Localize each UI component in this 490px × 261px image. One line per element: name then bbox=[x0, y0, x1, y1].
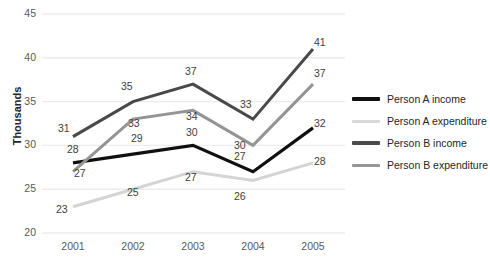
x-tick-label: 2001 bbox=[50, 240, 96, 252]
x-tick-label: 2004 bbox=[230, 240, 276, 252]
chart-legend: Person A incomePerson A expenditurePerso… bbox=[352, 88, 490, 176]
legend-item-3[interactable]: Person B expenditure bbox=[352, 154, 490, 176]
data-point-label: 23 bbox=[56, 203, 68, 215]
legend-item-label: Person B income bbox=[387, 137, 467, 149]
x-tick-label: 2002 bbox=[110, 240, 156, 252]
legend-item-1[interactable]: Person A expenditure bbox=[352, 110, 490, 132]
line-chart: Thousands 454035302520 20012002200320042… bbox=[0, 0, 490, 261]
legend-item-label: Person A expenditure bbox=[387, 115, 487, 127]
gridlines bbox=[42, 14, 345, 233]
legend-item-2[interactable]: Person B income bbox=[352, 132, 490, 154]
data-point-label: 29 bbox=[131, 132, 143, 144]
y-axis-title: Thousands bbox=[11, 66, 23, 166]
data-point-label: 27 bbox=[74, 167, 86, 179]
data-point-label: 31 bbox=[58, 122, 70, 134]
data-point-label: 37 bbox=[314, 67, 326, 79]
data-point-label: 35 bbox=[121, 80, 133, 92]
legend-item-0[interactable]: Person A income bbox=[352, 88, 490, 110]
legend-item-label: Person B expenditure bbox=[387, 159, 488, 171]
data-point-label: 37 bbox=[185, 65, 197, 77]
legend-swatch-icon bbox=[352, 141, 380, 144]
series-line-1 bbox=[73, 163, 313, 207]
data-point-label: 26 bbox=[234, 190, 246, 202]
x-tick-label: 2003 bbox=[170, 240, 216, 252]
data-point-label: 30 bbox=[186, 126, 198, 138]
data-point-label: 28 bbox=[67, 143, 79, 155]
data-point-label: 41 bbox=[314, 36, 326, 48]
data-point-label: 34 bbox=[186, 110, 198, 122]
data-point-label: 33 bbox=[240, 98, 252, 110]
data-point-label: 27 bbox=[234, 150, 246, 162]
legend-swatch-icon bbox=[352, 97, 380, 100]
legend-swatch-icon bbox=[352, 164, 380, 167]
data-point-label: 28 bbox=[314, 155, 326, 167]
y-tick-label: 45 bbox=[10, 7, 36, 19]
legend-swatch-icon bbox=[352, 120, 380, 123]
y-tick-label: 35 bbox=[10, 95, 36, 107]
data-point-label: 32 bbox=[314, 117, 326, 129]
x-tick-label: 2005 bbox=[290, 240, 336, 252]
data-point-label: 27 bbox=[185, 171, 197, 183]
series-line-2 bbox=[73, 49, 313, 137]
y-tick-label: 40 bbox=[10, 51, 36, 63]
y-tick-label: 20 bbox=[10, 226, 36, 238]
data-point-label: 25 bbox=[127, 186, 139, 198]
y-tick-label: 25 bbox=[10, 182, 36, 194]
y-tick-label: 30 bbox=[10, 138, 36, 150]
legend-item-label: Person A income bbox=[387, 93, 466, 105]
data-point-label: 33 bbox=[128, 117, 140, 129]
